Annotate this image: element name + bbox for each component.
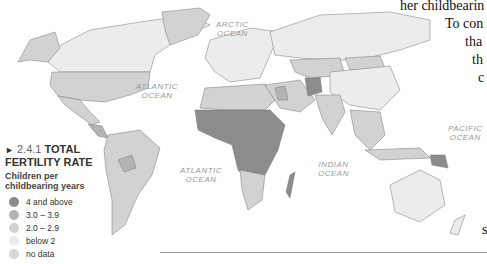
swatch-medium-icon xyxy=(9,210,19,220)
legend-label: 4 and above xyxy=(26,197,73,207)
legend-item: no data xyxy=(5,247,93,260)
legend-subtitle-line1: Children per xyxy=(5,171,93,181)
ocean-label-line: OCEAN xyxy=(136,91,178,100)
legend-item: 3.0 – 3.9 xyxy=(5,208,93,221)
legend-subtitle-line2: childbearing years xyxy=(5,181,93,191)
ocean-label-atlantic-north: ATLANTIC OCEAN xyxy=(136,82,178,100)
central-america xyxy=(88,124,108,138)
legend-label: below 2 xyxy=(26,236,55,246)
north-africa xyxy=(200,84,275,110)
ocean-label-line: OCEAN xyxy=(216,29,249,38)
legend-title-line2: FERTILITY RATE xyxy=(5,156,93,168)
legend-title: ► 2.4.1 TOTAL xyxy=(5,143,93,156)
legend-label: 3.0 – 3.9 xyxy=(26,210,59,220)
ocean-label-arctic: ARCTIC OCEAN xyxy=(216,20,249,38)
ocean-label-line: ARCTIC xyxy=(216,20,249,29)
body-text-line: s xyxy=(482,222,487,238)
greenland xyxy=(162,8,210,45)
indonesia xyxy=(365,148,430,160)
south-america xyxy=(104,130,160,235)
body-text-line: her childbearin xyxy=(400,0,484,14)
legend-subtitle: Children per childbearing years xyxy=(5,171,93,191)
section-number: 2.4.1 xyxy=(17,143,41,155)
divider xyxy=(160,252,487,253)
southeast-asia xyxy=(350,110,385,150)
madagascar xyxy=(286,172,295,198)
swatch-light-icon xyxy=(9,223,19,233)
ocean-label-line: OCEAN xyxy=(180,175,222,184)
ocean-label-line: OCEAN xyxy=(448,133,482,142)
australia xyxy=(390,170,445,222)
legend-item: 4 and above xyxy=(5,195,93,208)
legend-label: no data xyxy=(26,249,54,259)
body-text-line: th xyxy=(472,52,483,68)
map-legend: ► 2.4.1 TOTAL FERTILITY RATE Children pe… xyxy=(5,143,93,260)
legend-label: 2.0 – 2.9 xyxy=(26,223,59,233)
swatch-dark-icon xyxy=(9,197,19,207)
ocean-label-pacific: PACIFIC OCEAN xyxy=(448,124,482,142)
legend-title-line1: TOTAL xyxy=(45,143,81,155)
swatch-nodata-icon xyxy=(9,249,19,259)
new-zealand xyxy=(450,215,465,235)
ocean-label-line: ATLANTIC xyxy=(180,166,222,175)
ocean-label-indian: INDIAN OCEAN xyxy=(318,160,349,178)
ocean-label-line: OCEAN xyxy=(318,169,349,178)
body-text-line: c xyxy=(478,70,484,86)
swatch-lightest-icon xyxy=(9,236,19,246)
ocean-label-line: PACIFIC xyxy=(448,124,482,133)
ocean-label-line: ATLANTIC xyxy=(136,82,178,91)
legend-item: below 2 xyxy=(5,234,93,247)
india xyxy=(315,95,345,135)
body-text-line: tha xyxy=(465,34,482,50)
ocean-label-line: INDIAN xyxy=(318,160,349,169)
southern-africa xyxy=(240,170,265,210)
afghanistan xyxy=(305,76,322,96)
papua-new-guinea xyxy=(430,155,448,168)
ocean-label-atlantic-south: ATLANTIC OCEAN xyxy=(180,166,222,184)
body-text-line: To con xyxy=(445,16,483,32)
legend-item: 2.0 – 2.9 xyxy=(5,221,93,234)
russia xyxy=(270,12,430,60)
triangle-right-icon: ► xyxy=(5,145,14,155)
